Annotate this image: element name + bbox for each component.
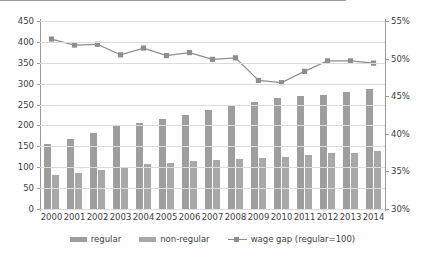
gridline [40, 146, 385, 147]
x-tick-label: 2014 [362, 212, 385, 223]
x-tick-label: 2012 [316, 212, 339, 223]
y-tick-mark-left [37, 42, 40, 43]
x-tick-label: 2004 [132, 212, 155, 223]
wage-gap-marker [141, 45, 146, 50]
x-tick-label: 2009 [247, 212, 270, 223]
gridline [40, 42, 385, 43]
gridline [40, 167, 385, 168]
x-tick-label: 2007 [201, 212, 224, 223]
legend-item-non-regular[interactable]: non-regular [139, 234, 209, 244]
gridline [40, 188, 385, 189]
y-tick-mark-left [37, 63, 40, 64]
wage-gap-marker [49, 36, 54, 41]
legend-swatch-regular [70, 237, 87, 242]
wage-gap-marker [72, 42, 77, 47]
legend-item-regular[interactable]: regular [70, 234, 121, 244]
wage-gap-marker [233, 55, 238, 60]
y-tick-mark-left [37, 146, 40, 147]
gridline [40, 21, 385, 22]
chart-container: 050100150200250300350400450 30%35%40%45%… [0, 0, 425, 256]
gridline [40, 105, 385, 106]
y-tick-mark-left [37, 21, 40, 22]
x-tick-label: 2001 [63, 212, 86, 223]
x-tick-label: 2003 [109, 212, 132, 223]
wage-gap-marker [302, 69, 307, 74]
x-tick-label: 2010 [270, 212, 293, 223]
legend-label-regular: regular [91, 234, 121, 244]
x-tick-label: 2002 [86, 212, 109, 223]
gridline [40, 84, 385, 85]
x-tick-label: 2005 [155, 212, 178, 223]
legend-label-wage-gap: wage gap (regular=100) [251, 234, 356, 244]
legend-swatch-wage-gap-line-icon [228, 236, 247, 243]
y-tick-mark-left [37, 105, 40, 106]
y-tick-mark-left [37, 188, 40, 189]
wage-gap-marker [210, 57, 215, 62]
gridline [40, 209, 385, 210]
x-tick-label: 2008 [224, 212, 247, 223]
y-tick-mark-left [37, 125, 40, 126]
chart-legend: regular non-regular wage gap (regular=10… [0, 234, 425, 244]
legend-label-non-regular: non-regular [160, 234, 209, 244]
gridline [40, 125, 385, 126]
legend-item-wage-gap[interactable]: wage gap (regular=100) [228, 234, 356, 244]
wage-gap-marker [164, 53, 169, 58]
y-tick-mark-left [37, 84, 40, 85]
wage-gap-marker [187, 50, 192, 55]
x-axis-labels: 2000200120022003200420052006200720082009… [40, 212, 385, 226]
x-tick-label: 2013 [339, 212, 362, 223]
gridline [40, 63, 385, 64]
wage-gap-marker [256, 78, 261, 83]
wage-gap-marker [118, 52, 123, 57]
x-tick-label: 2011 [293, 212, 316, 223]
x-tick-label: 2000 [40, 212, 63, 223]
y-tick-mark-left [37, 209, 40, 210]
y-tick-mark-left [37, 167, 40, 168]
x-tick-label: 2006 [178, 212, 201, 223]
legend-swatch-non-regular [139, 237, 156, 242]
